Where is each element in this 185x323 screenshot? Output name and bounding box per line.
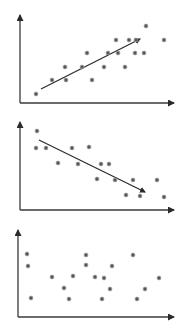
data-point (25, 252, 29, 256)
data-point (107, 162, 111, 166)
data-point (29, 296, 33, 300)
positive-correlation-chart (20, 15, 174, 103)
data-point (95, 177, 99, 181)
data-point (162, 38, 166, 42)
data-point (116, 51, 120, 55)
data-point (100, 297, 104, 301)
data-point (102, 276, 106, 280)
data-point (80, 65, 84, 69)
data-point (135, 297, 139, 301)
data-point (162, 195, 166, 199)
data-point (110, 264, 114, 268)
data-point (123, 65, 127, 69)
data-point (124, 193, 128, 197)
scatter-plots-canvas (0, 0, 185, 323)
data-point (34, 146, 38, 150)
data-point (67, 297, 71, 301)
data-point (142, 51, 146, 55)
data-point (134, 38, 138, 42)
data-point (44, 146, 48, 150)
data-point (76, 162, 80, 166)
data-point (155, 178, 159, 182)
data-point (113, 178, 117, 182)
trend-arrow (39, 140, 145, 192)
data-point (50, 275, 54, 279)
data-point (35, 129, 39, 133)
data-point (26, 264, 30, 268)
data-point (34, 92, 38, 96)
negative-correlation-chart (20, 122, 174, 210)
data-point (131, 178, 135, 182)
data-point (85, 51, 89, 55)
data-point (138, 194, 142, 198)
data-point (62, 286, 66, 290)
data-point (71, 274, 75, 278)
data-point (50, 78, 54, 82)
data-point (84, 253, 88, 257)
data-point (56, 161, 60, 165)
data-point (143, 287, 147, 291)
data-point (131, 253, 135, 257)
data-point (108, 287, 112, 291)
data-point (90, 78, 94, 82)
data-point (127, 38, 131, 42)
no-correlation-chart (18, 230, 174, 317)
data-point (157, 276, 161, 280)
data-point (102, 65, 106, 69)
data-point (87, 145, 91, 149)
data-point (64, 78, 68, 82)
data-point (133, 51, 137, 55)
data-point (84, 263, 88, 267)
data-point (99, 162, 103, 166)
data-point (93, 275, 97, 279)
data-point (114, 38, 118, 42)
data-point (106, 51, 110, 55)
data-point (144, 24, 148, 28)
data-point (63, 65, 67, 69)
data-point (70, 146, 74, 150)
